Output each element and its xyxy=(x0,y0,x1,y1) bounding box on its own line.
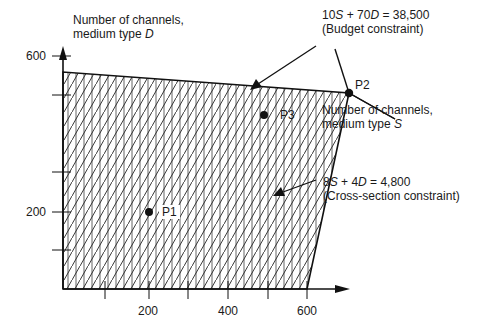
feasible-region xyxy=(63,72,349,289)
y-axis-arrow-icon xyxy=(59,46,67,60)
x-tick-label-200: 200 xyxy=(138,304,158,318)
y-tick-label-600: 600 xyxy=(26,49,46,63)
p2-label: P2 xyxy=(355,78,370,92)
point-p3 xyxy=(260,111,268,119)
y-axis-label-line1: Number of channels, xyxy=(73,13,184,27)
cross-eq-part: 8 xyxy=(323,175,330,189)
x-axis-label: Number of channels, medium type S xyxy=(322,103,433,131)
budget-note: (Budget constraint) xyxy=(322,22,429,36)
y-tick-label-200: 200 xyxy=(26,205,46,219)
point-p2 xyxy=(345,89,353,97)
x-axis-label-prefix: medium type xyxy=(322,117,394,131)
y-axis-label-prefix: medium type xyxy=(73,27,145,41)
cross-equation: 8S + 4D = 4,800 xyxy=(323,175,460,189)
cross-annotation: 8S + 4D = 4,800 (Cross-section constrain… xyxy=(323,175,460,203)
p1-label: P1 xyxy=(159,205,180,219)
y-axis-label: Number of channels, medium type D xyxy=(73,13,184,41)
budget-eq-part: + 70 xyxy=(343,8,370,22)
lp-diagram xyxy=(0,0,487,334)
cross-eq-var-d: D xyxy=(358,175,367,189)
p3-label: P3 xyxy=(280,108,295,122)
cross-eq-part: = 4,800 xyxy=(367,175,411,189)
x-axis-label-line2: medium type S xyxy=(322,117,433,131)
point-p1 xyxy=(145,208,153,216)
budget-eq-part: = 38,500 xyxy=(379,8,429,22)
cross-note: (Cross-section constraint) xyxy=(323,189,460,203)
cross-eq-part: + 4 xyxy=(338,175,358,189)
budget-eq-part: 10 xyxy=(322,8,335,22)
x-axis-label-line1: Number of channels, xyxy=(322,103,433,117)
cross-section-constraint-line xyxy=(335,49,349,93)
cross-eq-var-s: S xyxy=(330,175,338,189)
x-tick-label-600: 600 xyxy=(297,304,317,318)
budget-eq-var-d: D xyxy=(370,8,379,22)
budget-annotation: 10S + 70D = 38,500 (Budget constraint) xyxy=(322,8,429,36)
budget-arrow xyxy=(258,46,316,84)
x-axis-var: S xyxy=(394,117,402,131)
y-axis-var: D xyxy=(145,27,154,41)
y-axis-label-line2: medium type D xyxy=(73,27,184,41)
x-axis-arrow-icon xyxy=(335,285,350,293)
budget-equation: 10S + 70D = 38,500 xyxy=(322,8,429,22)
x-tick-label-400: 400 xyxy=(218,304,238,318)
